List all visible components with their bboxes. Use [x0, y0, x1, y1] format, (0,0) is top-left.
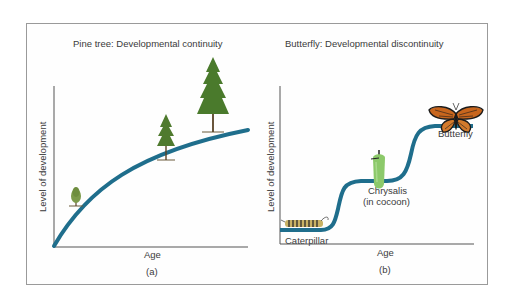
- small-pine-tree-icon: [69, 187, 83, 206]
- medium-pine-tree-icon: [157, 114, 175, 160]
- large-pine-tree-icon: [197, 57, 229, 132]
- panel-a-plot: [27, 24, 263, 286]
- caterpillar-icon: [281, 217, 328, 227]
- panel-a-growth-curve: [54, 130, 248, 246]
- panel-b-plot: [263, 24, 489, 286]
- figure-frame: Pine tree: Developmental continuity Leve…: [26, 23, 488, 285]
- panel-b-discontinuity: Butterfly: Developmental discontinuity L…: [263, 24, 489, 284]
- panel-a-continuity: Pine tree: Developmental continuity Leve…: [27, 24, 263, 284]
